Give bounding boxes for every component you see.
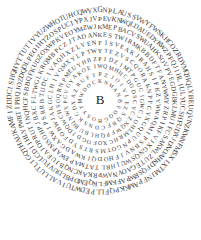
ring-letter: Q [109, 186, 115, 194]
ring-letter: O [91, 116, 96, 122]
ring-letter: N [146, 88, 153, 94]
ring-letter: R [39, 104, 46, 109]
ring-letter: Z [126, 115, 133, 121]
ring-letter: Z [162, 105, 169, 110]
ring-letter: O [103, 155, 108, 162]
ring-letter: P [160, 115, 167, 120]
ring-letter: P [147, 101, 153, 105]
ring-letter: K [78, 115, 85, 122]
ring-letter: E [87, 65, 92, 72]
ring-letter: W [79, 92, 86, 99]
ring-letter: I [118, 83, 124, 88]
ring-letter: F [92, 139, 96, 145]
ring-letter: W [91, 48, 98, 55]
ring-letter: E [123, 101, 129, 105]
ring-letter: P [98, 72, 101, 78]
ring-letter: A [48, 111, 55, 117]
ring-letter: H [110, 162, 116, 169]
ring-letter: F [152, 82, 159, 87]
ring-letter: T [95, 164, 99, 171]
ring-letter: C [131, 100, 137, 104]
ring-letter: P [98, 56, 101, 62]
ring-letter: S [131, 95, 137, 99]
ring-letter: T [39, 93, 46, 98]
ring-letter: S [55, 104, 61, 108]
ring-letter: I [139, 94, 145, 97]
ring-letter: Y [163, 100, 170, 105]
ring-letter: N [115, 92, 121, 97]
ring-letter: D [98, 156, 103, 162]
ring-letter: Y [155, 99, 161, 104]
ring-letter: F [106, 122, 111, 128]
ring-letter: O [55, 99, 61, 103]
ring-letter: F [23, 97, 30, 101]
ring-letter: R [105, 163, 110, 170]
ring-letter: I [104, 56, 107, 62]
ring-letter: K [47, 105, 54, 110]
ring-letter: Q [100, 132, 105, 138]
ring-letter: C [137, 87, 144, 92]
ring-letter: E [109, 49, 114, 56]
ring-letter: X [103, 139, 108, 146]
ring-letter: X [71, 100, 77, 104]
ring-letter: H [49, 82, 56, 88]
ring-letter: L [100, 164, 104, 171]
ring-letter: O [112, 109, 119, 115]
ring-letter: C [47, 94, 54, 99]
ring-letter: Z [113, 59, 119, 66]
ring-letter: I [51, 78, 57, 82]
ring-letter: I [104, 40, 107, 47]
ring-letter: C [128, 110, 135, 116]
ring-letter: G [47, 100, 53, 105]
ring-letter: P [81, 50, 86, 57]
ring-letter: P [63, 101, 69, 104]
ring-letter: Q [115, 115, 122, 122]
ring-letter: P [90, 187, 95, 195]
ring-letter: F [115, 105, 121, 110]
ring-letter: T [106, 147, 111, 154]
ring-letter: J [136, 115, 142, 119]
ring-letter: X [63, 105, 70, 110]
ring-letter: C [63, 95, 69, 100]
ring-letter: I [150, 77, 157, 81]
ring-letter: C [137, 109, 144, 114]
ring-letter: P [147, 95, 153, 99]
ring-letter: F [103, 179, 107, 186]
ring-letter: Q [88, 179, 94, 187]
ring-letter: I [123, 95, 129, 98]
ring-letter: O [98, 140, 102, 146]
ring-letter: S [95, 148, 99, 154]
ring-letter: H [95, 132, 100, 138]
ring-letter: G [170, 91, 177, 97]
ring-letter: C [23, 101, 30, 106]
ring-letter: B [116, 99, 121, 103]
ring-letter: A [89, 163, 95, 170]
ring-letter: L [95, 187, 100, 194]
ring-letter: Q [92, 155, 97, 162]
ring-letter: B [86, 57, 91, 64]
ring-letter: J [109, 75, 113, 81]
ring-letter: I [87, 155, 90, 162]
ring-letter: C [101, 124, 105, 130]
ring-letter: O [86, 138, 92, 145]
ring-letter: W [102, 171, 109, 178]
ring-letter: F [114, 153, 119, 160]
ring-letter: I [93, 64, 96, 70]
ring-letter: I [167, 121, 174, 125]
ring-letter: B [111, 119, 117, 126]
ring-letter: I [46, 71, 53, 76]
ring-letter: T [103, 48, 107, 55]
ring-letter: P [98, 172, 102, 179]
ring-letter: C [92, 80, 97, 86]
ring-letter: P [14, 101, 21, 105]
ring-letter: M [100, 148, 106, 155]
ring-letter: S [108, 32, 113, 39]
ring-letter: Z [122, 106, 128, 111]
center-letter: B [96, 92, 105, 108]
ring-letter: Q [55, 93, 62, 98]
ring-letter: D [95, 124, 100, 130]
ring-letter: N [88, 122, 94, 129]
ring-letter: L [98, 180, 102, 187]
ring-letter: L [100, 187, 105, 194]
ring-letter: R [93, 171, 98, 178]
